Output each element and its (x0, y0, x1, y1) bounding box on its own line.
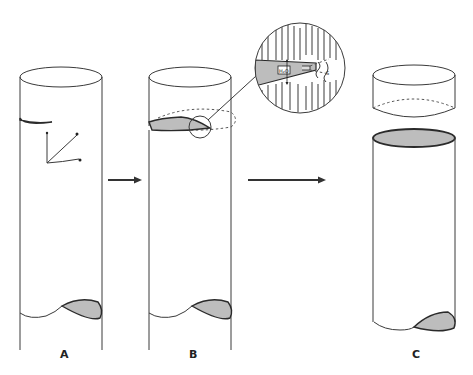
panel-label-c: C (412, 348, 420, 361)
cylinder-c-bottom (373, 129, 455, 331)
cylinder-c-top (373, 65, 455, 117)
magnified-inset: H₂O S (255, 22, 345, 113)
panel-label-b: B (189, 348, 197, 361)
arrow-b-to-c-icon (248, 177, 326, 184)
diagram: H₂O S (0, 0, 473, 375)
panel-label-a: A (60, 348, 69, 361)
arrow-a-to-b-icon (108, 177, 142, 184)
tip-label: S (326, 70, 329, 76)
cylinder-b (149, 67, 256, 350)
axes-icon (46, 132, 82, 163)
cylinder-a (20, 67, 102, 350)
